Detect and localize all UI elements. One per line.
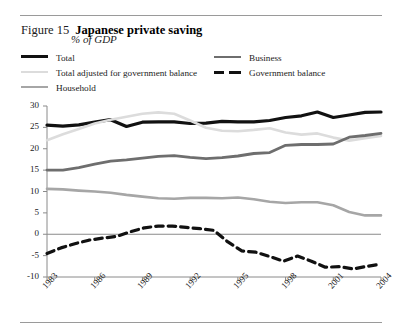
series-line-total xyxy=(47,112,381,127)
plot-area: 302520151050-5-10 1983198619891992199519… xyxy=(0,0,403,336)
series-line-business xyxy=(47,133,381,170)
y-tick-label: -10 xyxy=(19,271,39,281)
y-tick-label: 10 xyxy=(19,186,39,196)
y-tick-label: 20 xyxy=(19,143,39,153)
y-tick-label: 25 xyxy=(19,121,39,131)
series-line-household xyxy=(47,189,381,216)
y-tick-label: 5 xyxy=(19,207,39,217)
y-tick-label: 30 xyxy=(19,100,39,110)
figure-container: Figure 15Japanese private saving % of GD… xyxy=(0,0,403,336)
y-tick-label: 0 xyxy=(19,228,39,238)
series-line-government-balance xyxy=(47,226,381,269)
y-tick-label: -5 xyxy=(19,250,39,260)
y-tick-label: 15 xyxy=(19,164,39,174)
chart-canvas xyxy=(0,0,403,336)
